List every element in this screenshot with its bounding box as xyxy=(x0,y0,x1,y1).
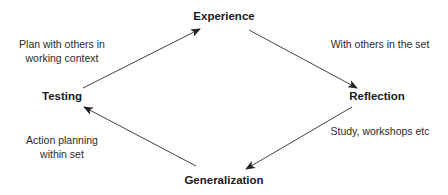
node-experience: Experience xyxy=(193,10,254,22)
label-line: Study, workshops etc xyxy=(330,124,429,138)
arrow-generalization-to-testing xyxy=(84,107,196,166)
node-reflection: Reflection xyxy=(349,90,405,102)
arrow-reflection-to-generalization xyxy=(246,107,352,169)
label-line: Action planning xyxy=(26,133,98,147)
label-line: Plan with others in xyxy=(19,37,105,51)
node-generalization: Generalization xyxy=(184,174,263,186)
node-testing: Testing xyxy=(42,90,82,102)
label-reflection-generalization: Study, workshops etc xyxy=(330,124,429,138)
label-line: With others in the set xyxy=(331,37,430,51)
label-line: within set xyxy=(26,147,98,161)
label-testing-experience: Plan with others in working context xyxy=(19,37,105,65)
label-experience-reflection: With others in the set xyxy=(331,37,430,51)
label-generalization-testing: Action planning within set xyxy=(26,133,98,161)
label-line: working context xyxy=(19,51,105,65)
